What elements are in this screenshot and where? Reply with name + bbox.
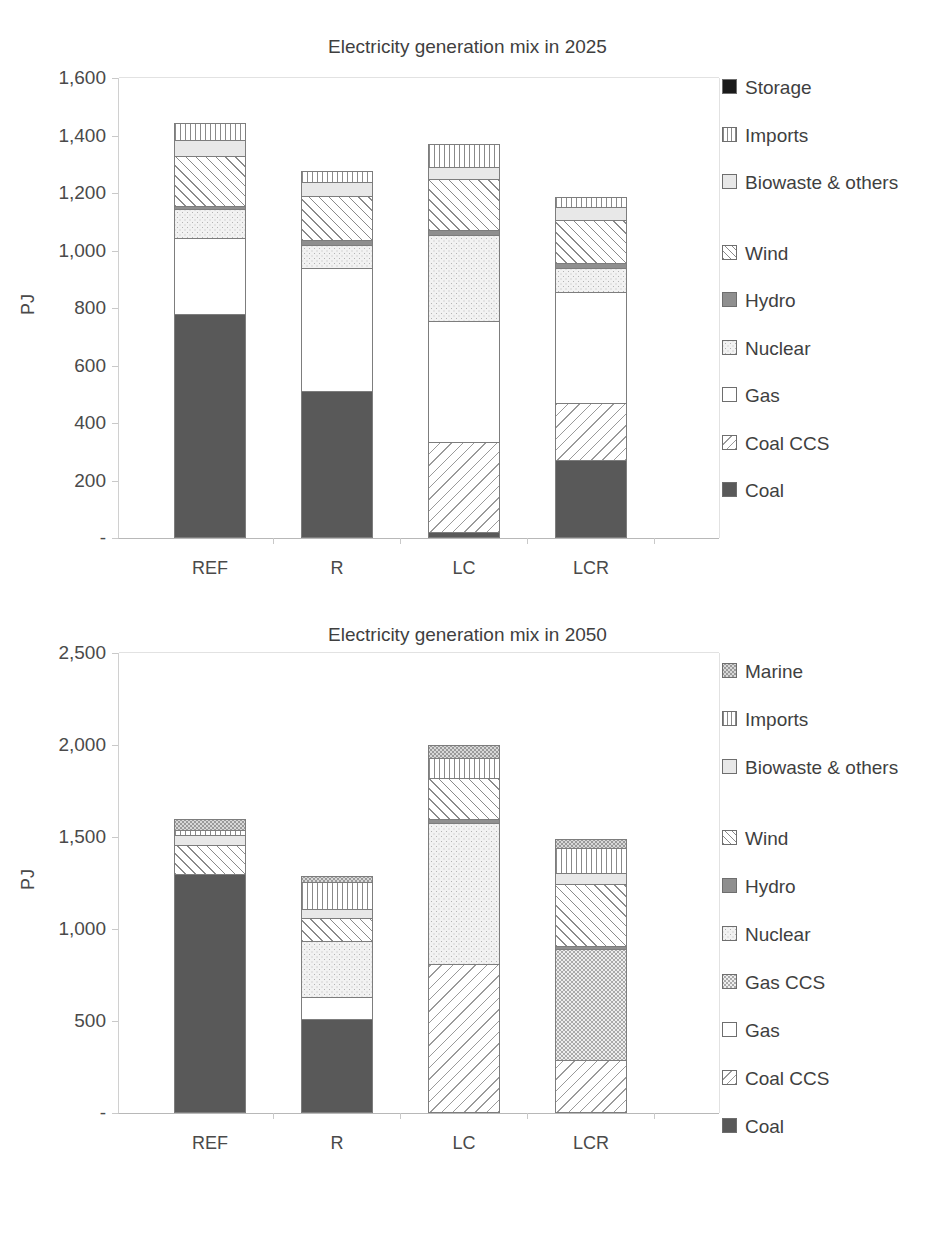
legend-item-wind[interactable]: Wind (722, 242, 788, 265)
legend-label: Coal (745, 479, 784, 502)
bar-segment-coal (174, 314, 246, 538)
bar-segment-nuclear (301, 941, 373, 997)
y-axis-tick-mark (112, 136, 118, 137)
legend-item-imports[interactable]: Imports (722, 124, 808, 147)
bar-lcr (555, 78, 627, 538)
bar-segment-imports (174, 830, 246, 836)
x-axis-tick-mark (273, 538, 274, 544)
bar-segment-biowaste-others (555, 873, 627, 884)
x-axis-tick-mark (400, 538, 401, 544)
y-axis-tick-mark (112, 193, 118, 194)
y-axis-tick-label: 800 (74, 297, 106, 319)
x-axis-tick-label-lc: LC (414, 558, 514, 579)
legend-swatch-icon (722, 974, 737, 989)
y-axis-tick-mark (112, 1021, 118, 1022)
legend-swatch-icon (722, 926, 737, 941)
y-axis-tick-mark (112, 929, 118, 930)
legend-label: Wind (745, 242, 788, 265)
legend-item-gas[interactable]: Gas (722, 384, 780, 407)
bar-segment-hydro (428, 819, 500, 824)
y-axis-tick-label: 1,000 (58, 240, 106, 262)
y-axis-tick-mark (112, 481, 118, 482)
legend-item-imports[interactable]: Imports (722, 708, 808, 731)
bar-ref (174, 653, 246, 1113)
x-axis-tick-mark (400, 1113, 401, 1119)
legend-item-wind[interactable]: Wind (722, 827, 788, 850)
bar-segment-wind (174, 156, 246, 206)
legend-2025: StorageImportsBiowaste & othersWindHydro… (722, 76, 922, 534)
y-axis-tick-mark (112, 538, 118, 539)
bar-segment-hydro (174, 206, 246, 209)
legend-item-biowaste-others[interactable]: Biowaste & others (722, 171, 898, 194)
legend-label: Gas (745, 384, 780, 407)
chart-title-2025: Electricity generation mix in 2025 (0, 36, 935, 58)
legend-swatch-icon (722, 245, 737, 260)
legend-item-coal[interactable]: Coal (722, 1115, 784, 1138)
bar-segment-wind (428, 778, 500, 818)
bar-segment-coal (301, 391, 373, 538)
x-axis-tick-label-lc: LC (414, 1133, 514, 1154)
y-axis-tick-label: - (100, 1102, 106, 1124)
legend-item-gas[interactable]: Gas (722, 1019, 780, 1042)
bar-ref (174, 78, 246, 538)
legend-label: Gas CCS (745, 971, 825, 994)
legend-swatch-icon (722, 711, 737, 726)
y-axis-tick-label: 1,500 (58, 826, 106, 848)
bar-segment-biowaste-others (555, 207, 627, 220)
bar-segment-imports (428, 144, 500, 167)
legend-label: Hydro (745, 875, 796, 898)
legend-2050: MarineImportsBiowaste & othersWindHydroN… (722, 660, 922, 1170)
bar-segment-gas (555, 292, 627, 403)
legend-swatch-icon (722, 435, 737, 450)
x-axis-tick-label-r: R (287, 558, 387, 579)
legend-item-storage[interactable]: Storage (722, 76, 812, 99)
plot-frame-right (719, 78, 720, 538)
legend-item-marine[interactable]: Marine (722, 660, 803, 683)
legend-label: Coal (745, 1115, 784, 1138)
bar-segment-gas (174, 238, 246, 314)
legend-item-nuclear[interactable]: Nuclear (722, 923, 810, 946)
legend-item-hydro[interactable]: Hydro (722, 289, 796, 312)
legend-label: Nuclear (745, 923, 810, 946)
legend-item-coal-ccs[interactable]: Coal CCS (722, 432, 829, 455)
bar-lc (428, 78, 500, 538)
legend-item-biowaste-others[interactable]: Biowaste & others (722, 756, 898, 779)
y-axis-tick-mark (112, 308, 118, 309)
legend-label: Marine (745, 660, 803, 683)
bar-segment-wind (301, 918, 373, 941)
bar-segment-hydro (555, 263, 627, 267)
bar-segment-imports (555, 197, 627, 207)
y-axis-tick-label: 1,600 (58, 67, 106, 89)
bar-segment-imports (174, 123, 246, 140)
x-axis-tick-mark (527, 538, 528, 544)
bar-r (301, 78, 373, 538)
bar-segment-coal-ccs (428, 442, 500, 533)
bar-segment-hydro (301, 240, 373, 244)
legend-swatch-icon (722, 1022, 737, 1037)
legend-label: Biowaste & others (745, 756, 898, 779)
y-axis-tick-label: 2,000 (58, 734, 106, 756)
bar-segment-nuclear (428, 235, 500, 321)
y-axis-tick-label: - (100, 527, 106, 549)
bar-segment-imports (301, 171, 373, 181)
legend-swatch-icon (722, 127, 737, 142)
y-axis-tick-label: 1,400 (58, 125, 106, 147)
bar-segment-coal-ccs (555, 403, 627, 461)
legend-item-coal-ccs[interactable]: Coal CCS (722, 1067, 829, 1090)
legend-swatch-icon (722, 663, 737, 678)
legend-item-nuclear[interactable]: Nuclear (722, 337, 810, 360)
legend-swatch-icon (722, 830, 737, 845)
chart-2025: Electricity generation mix in 2025 PJ St… (0, 0, 935, 600)
y-axis-tick-label: 2,500 (58, 642, 106, 664)
legend-item-hydro[interactable]: Hydro (722, 875, 796, 898)
bar-segment-biowaste-others (174, 835, 246, 845)
legend-swatch-icon (722, 482, 737, 497)
legend-item-gas-ccs[interactable]: Gas CCS (722, 971, 825, 994)
bar-segment-gas (301, 268, 373, 392)
legend-swatch-icon (722, 174, 737, 189)
bar-segment-coal (301, 1019, 373, 1113)
y-axis-tick-mark (112, 251, 118, 252)
bar-segment-gas-ccs (555, 949, 627, 1059)
x-axis-tick-label-r: R (287, 1133, 387, 1154)
legend-item-coal[interactable]: Coal (722, 479, 784, 502)
